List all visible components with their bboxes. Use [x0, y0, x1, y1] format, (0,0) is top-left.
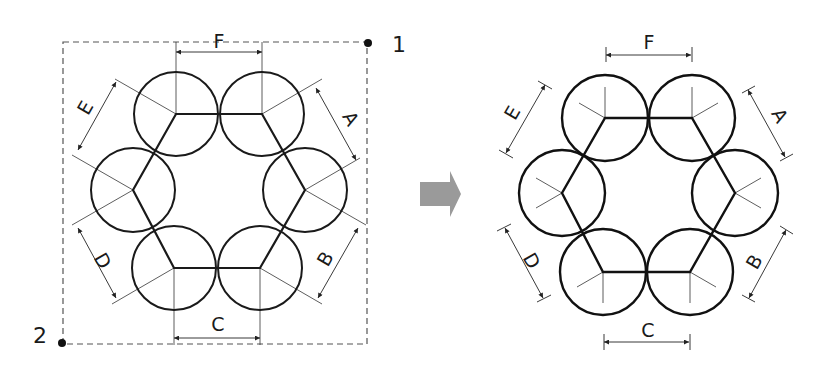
dim-label-B: B	[312, 247, 338, 269]
construction-lines	[72, 42, 366, 345]
figure-canvas: 1 2	[0, 0, 833, 380]
dim-label-D: D	[519, 249, 545, 273]
corner-point-2[interactable]	[58, 339, 66, 347]
left-diagram: 1 2	[33, 30, 406, 348]
dim-label-F: F	[644, 31, 655, 53]
circles	[91, 72, 347, 310]
dim-label-C: C	[641, 319, 654, 341]
right-diagram: F A B C D E	[497, 31, 793, 350]
dim-label-A: A	[338, 107, 364, 129]
selection-box	[63, 42, 367, 344]
dim-label-C: C	[211, 313, 224, 335]
corner-point-1[interactable]	[364, 39, 372, 47]
dimension-lines	[78, 52, 358, 338]
dim-label-B: B	[741, 250, 767, 272]
dim-label-F: F	[214, 30, 225, 52]
dim-label-D: D	[90, 249, 116, 273]
corner-label-1: 1	[392, 32, 406, 57]
dim-label-A: A	[767, 104, 793, 126]
dim-label-E: E	[72, 97, 97, 118]
dimension-lines	[497, 47, 793, 350]
corner-label-2: 2	[33, 323, 47, 348]
right-arrow-icon	[420, 171, 461, 217]
center-hexagon[interactable]	[133, 114, 305, 268]
dim-label-E: E	[499, 102, 524, 123]
center-hexagon[interactable]	[562, 118, 735, 272]
